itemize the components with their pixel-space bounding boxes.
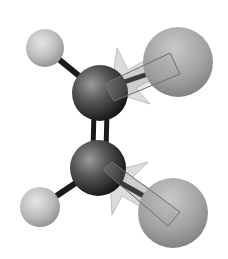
atom-h1 [26, 29, 64, 67]
atom-h2 [20, 187, 60, 227]
molecule-svg [0, 0, 228, 259]
molecule-diagram: Ball-and-stick model with bond dipole ar… [0, 0, 228, 259]
